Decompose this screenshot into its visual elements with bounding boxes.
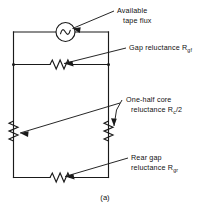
front-gap-label: Gap reluctance Rgf: [129, 43, 192, 53]
arrowhead-core-right: [111, 118, 117, 126]
leader-front-gap: [64, 48, 126, 64]
figure-caption: (a): [100, 193, 110, 202]
core-label-line2: reluctance Rc/2: [131, 105, 182, 115]
source-label-line2: tape flux: [123, 16, 152, 25]
core-label-text: reluctance R: [131, 105, 173, 114]
source-label-line1: Available: [117, 6, 147, 15]
rear-gap-label-line1: Rear gap: [131, 153, 162, 162]
leader-source: [73, 11, 115, 29]
leader-core-left: [20, 103, 120, 133]
rear-gap-label-text: reluctance R: [131, 163, 173, 172]
circuit-diagram-canvas: Available tape flux Gap reluctance Rgf O…: [0, 0, 213, 208]
core-label-suffix: /2: [176, 105, 182, 114]
front-gap-label-subscript: gf: [187, 47, 192, 53]
rear-gap-reluctance-resistor: [50, 173, 70, 182]
core-label-line1: One-half core: [126, 95, 172, 104]
junction-dot-left: [12, 63, 15, 66]
gap-reluctance-resistor: [50, 60, 70, 69]
leader-rear-gap: [65, 158, 128, 177]
leader-arrowheads: [20, 27, 117, 179]
front-gap-label-text: Gap reluctance R: [129, 43, 187, 52]
rear-gap-label-subscript: gr: [173, 167, 178, 173]
rear-gap-label-line2: reluctance Rgr: [131, 163, 178, 173]
reluctance-circuit-figure: Available tape flux Gap reluctance Rgf O…: [0, 0, 213, 208]
circuit-outline: [14, 32, 109, 178]
junction-dot-right: [107, 63, 110, 66]
ac-flux-source: [56, 23, 75, 42]
